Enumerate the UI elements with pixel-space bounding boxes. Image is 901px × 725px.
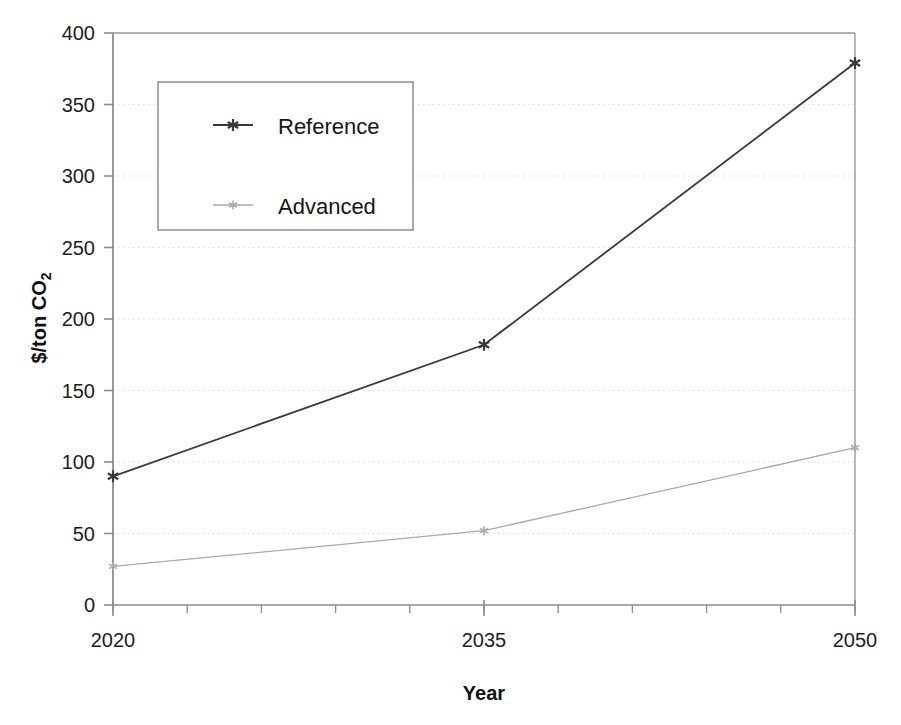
chart-container: 050100150200250300350400 202020352050 Re…	[0, 0, 901, 725]
y-tick-label: 0	[84, 594, 95, 616]
y-tick-label: 300	[62, 165, 95, 187]
y-tick-label: 250	[62, 237, 95, 259]
x-tick-label: 2050	[833, 629, 878, 651]
x-tick-label: 2020	[91, 629, 136, 651]
legend: ReferenceAdvanced	[158, 82, 413, 230]
y-tick-label: 400	[62, 22, 95, 44]
y-tick-label: 200	[62, 308, 95, 330]
legend-label: Reference	[278, 114, 380, 139]
legend-label: Advanced	[278, 194, 376, 219]
x-tick-label: 2035	[462, 629, 507, 651]
y-tick-label: 100	[62, 451, 95, 473]
y-axis-title-main: $/ton CO	[28, 280, 50, 363]
chart-background	[0, 0, 901, 725]
y-tick-label: 350	[62, 94, 95, 116]
y-tick-label: 50	[73, 523, 95, 545]
y-axis-title-subscript: 2	[38, 272, 54, 280]
x-axis-title: Year	[463, 682, 505, 704]
line-chart: 050100150200250300350400 202020352050 Re…	[0, 0, 901, 725]
y-tick-label: 150	[62, 380, 95, 402]
